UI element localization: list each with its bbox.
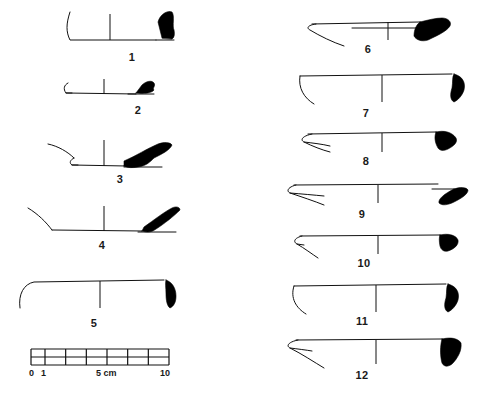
figure-9: 9: [282, 175, 480, 223]
vessel-profile-6: [300, 10, 476, 58]
figure-number-label-9: 9: [342, 209, 382, 220]
rim-section-fill-4: [142, 207, 180, 232]
vessel-profile-7: [292, 66, 480, 118]
figure-5: 5: [12, 272, 188, 328]
vessel-profile-8: [294, 122, 480, 168]
scale-tick-label-1: 1: [41, 369, 46, 378]
figure-number-label-5: 5: [74, 318, 114, 329]
figure-number-label-6: 6: [348, 44, 388, 55]
figure-6: 6: [300, 10, 476, 58]
rim-section-fill-3: [124, 143, 172, 168]
profile-outline-2: [64, 83, 136, 94]
figure-number-label-4: 4: [82, 240, 122, 251]
rim-section-fill-11: [445, 284, 459, 312]
scale-tick-label-5: 5 cm: [96, 369, 117, 378]
rim-section-fill-7: [451, 74, 465, 102]
profile-outline-12: [288, 339, 442, 368]
figure-number-label-11: 11: [342, 316, 382, 327]
profile-outline-1: [67, 12, 156, 40]
rim-section-fill-10: [439, 234, 458, 251]
figure-10: 10: [288, 226, 478, 272]
figure-number-label-8: 8: [346, 156, 386, 167]
figure-number-label-12: 12: [342, 370, 382, 381]
profile-outline-4: [28, 208, 142, 231]
figure-4: 4: [20, 200, 176, 250]
figure-3: 3: [38, 132, 172, 184]
figure-2: 2: [58, 75, 170, 113]
rim-section-fill-1: [158, 11, 174, 39]
profile-outline-8: [302, 132, 436, 152]
pottery-profile-plate: 123456789101112 015 cm10: [0, 0, 488, 396]
figure-12: 12: [282, 330, 478, 382]
figure-1: 1: [48, 8, 178, 56]
rim-section-fill-9: [439, 188, 468, 205]
rim-section-fill-2: [136, 81, 155, 93]
rim-section-fill-5: [166, 280, 176, 308]
scale-tick-label-0: 0: [29, 369, 34, 378]
scale-tick-label-10: 10: [160, 369, 170, 378]
profile-outline-9: [288, 184, 454, 205]
profile-outline-7: [300, 74, 452, 104]
vessel-profile-1: [48, 8, 178, 56]
profile-outline-5: [20, 280, 164, 308]
figure-11: 11: [284, 276, 478, 326]
profile-outline-10: [295, 235, 440, 258]
figure-number-label-3: 3: [100, 174, 140, 185]
figure-number-label-7: 7: [346, 108, 386, 119]
figure-7: 7: [292, 66, 480, 118]
scale-bar: 015 cm10: [30, 348, 188, 380]
profile-outline-3: [48, 144, 126, 166]
scale-bar-graphic: [30, 348, 170, 366]
profile-outline-11: [293, 284, 446, 314]
figure-number-label-10: 10: [344, 258, 384, 269]
rim-section-fill-8: [435, 131, 457, 150]
figure-number-label-1: 1: [112, 52, 152, 63]
figure-8: 8: [294, 122, 480, 168]
rim-section-fill-12: [441, 338, 462, 366]
rim-section-fill-6: [414, 18, 451, 41]
figure-number-label-2: 2: [118, 105, 158, 116]
profile-outline-6: [308, 22, 420, 46]
